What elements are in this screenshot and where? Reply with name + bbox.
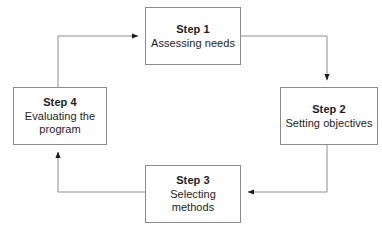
connector-3-to-4 bbox=[58, 152, 145, 192]
process-cycle-diagram: Step 1 Assessing needs Step 2 Setting ob… bbox=[0, 0, 382, 229]
step-1-description: Assessing needs bbox=[147, 37, 239, 50]
step-box-4: Step 4 Evaluating the program bbox=[13, 87, 107, 145]
connector-4-to-1 bbox=[58, 36, 138, 87]
step-1-title: Step 1 bbox=[176, 23, 210, 36]
step-4-description: Evaluating the program bbox=[14, 110, 106, 136]
connector-1-to-2 bbox=[241, 36, 327, 80]
step-box-3: Step 3 Selecting methods bbox=[145, 165, 241, 223]
step-box-1: Step 1 Assessing needs bbox=[145, 7, 241, 65]
step-box-2: Step 2 Setting objectives bbox=[280, 87, 378, 145]
step-3-description: Selecting methods bbox=[146, 188, 240, 214]
step-2-description: Setting objectives bbox=[281, 117, 376, 130]
step-2-title: Step 2 bbox=[312, 103, 346, 116]
step-3-title: Step 3 bbox=[176, 174, 210, 187]
connector-2-to-3 bbox=[248, 145, 327, 192]
step-4-title: Step 4 bbox=[43, 96, 77, 109]
